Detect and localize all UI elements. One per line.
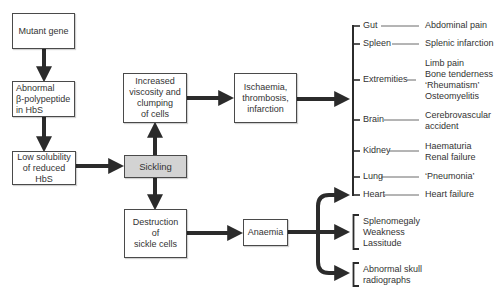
ischaemia-line-3: infarction	[247, 104, 284, 115]
effect-radiographs: radiographs	[363, 275, 411, 286]
destruction-line-3: sickle cells	[134, 239, 177, 250]
organ-extremities: Extremities	[363, 74, 408, 85]
low-solubility-line-1: Low solubility	[17, 152, 71, 163]
increased-viscosity-line-2: viscosity and	[129, 87, 181, 98]
outcome-osteomyelitis: Osteomyelitis	[425, 91, 479, 102]
abnormal-polypeptide-line-3: in HbS	[16, 105, 43, 116]
outcome-rheumatism: ‘Rheumatism’	[425, 80, 480, 91]
organ-gut: Gut	[363, 20, 378, 31]
anaemia-box: Anaemia	[243, 219, 288, 246]
ischaemia-line-2: thrombosis,	[242, 93, 289, 104]
increased-viscosity-box: Increased viscosity and clumping of cell…	[123, 73, 187, 123]
general-effects-bracket	[354, 215, 360, 249]
mutant-gene-box: Mutant gene	[12, 13, 75, 49]
outcome-pneumonia: ‘Pneumonia’	[425, 171, 475, 182]
abnormal-polypeptide-line-2: β-polypeptide	[16, 94, 70, 105]
anaemia-label: Anaemia	[248, 227, 284, 238]
organ-spleen: Spleen	[363, 38, 391, 49]
ischaemia-line-1: Ischaemia,	[244, 82, 288, 93]
outcome-abdominal-pain: Abdominal pain	[425, 20, 487, 31]
effect-splenomegaly: Splenomegaly	[363, 216, 420, 227]
increased-viscosity-line-1: Increased	[135, 76, 175, 87]
outcome-haematuria: Haematuria	[425, 141, 472, 152]
abnormal-polypeptide-line-1: Abnormal	[16, 83, 55, 94]
effect-weakness: Weakness	[363, 227, 405, 238]
increased-viscosity-line-3: clumping	[137, 98, 173, 109]
abnormal-polypeptide-box: Abnormal β-polypeptide in HbS	[12, 81, 75, 117]
outcome-accident: accident	[425, 121, 459, 132]
outcome-limb-pain: Limb pain	[425, 58, 464, 69]
increased-viscosity-line-4: of cells	[141, 109, 169, 120]
sickling-label: Sickling	[139, 161, 172, 172]
destruction-line-1: Destruction	[133, 217, 179, 228]
sickling-box: Sickling	[124, 155, 187, 178]
organ-heart: Heart	[363, 189, 385, 200]
low-solubility-line-3: HbS	[35, 174, 53, 185]
destruction-box: Destruction of sickle cells	[124, 209, 187, 258]
mutant-gene-label: Mutant gene	[18, 26, 68, 37]
arrow-anaemia-to-heart	[318, 195, 343, 232]
low-solubility-box: Low solubility of reduced HbS	[12, 151, 76, 185]
outcome-cerebrovascular: Cerebrovascular	[425, 110, 491, 121]
effect-abnormal-skull: Abnormal skull	[363, 264, 422, 275]
ischaemia-box: Ischaemia, thrombosis, infarction	[234, 73, 297, 123]
arrow-anaemia-to-skull	[318, 232, 343, 273]
organ-kidney: Kidney	[363, 145, 391, 156]
outcome-bone-tenderness: Bone tenderness	[425, 69, 493, 80]
outcome-splenic-infarction: Splenic infarction	[425, 38, 494, 49]
organ-brain: Brain	[363, 114, 384, 125]
effect-lassitude: Lassitude	[363, 238, 402, 249]
outcome-heart-failure: Heart failure	[425, 189, 474, 200]
organ-lung: Lung	[363, 171, 383, 182]
outcome-renal-failure: Renal failure	[425, 152, 476, 163]
destruction-line-2: of	[152, 228, 160, 239]
low-solubility-line-2: of reduced	[23, 163, 66, 174]
skull-effects-bracket	[354, 263, 360, 286]
